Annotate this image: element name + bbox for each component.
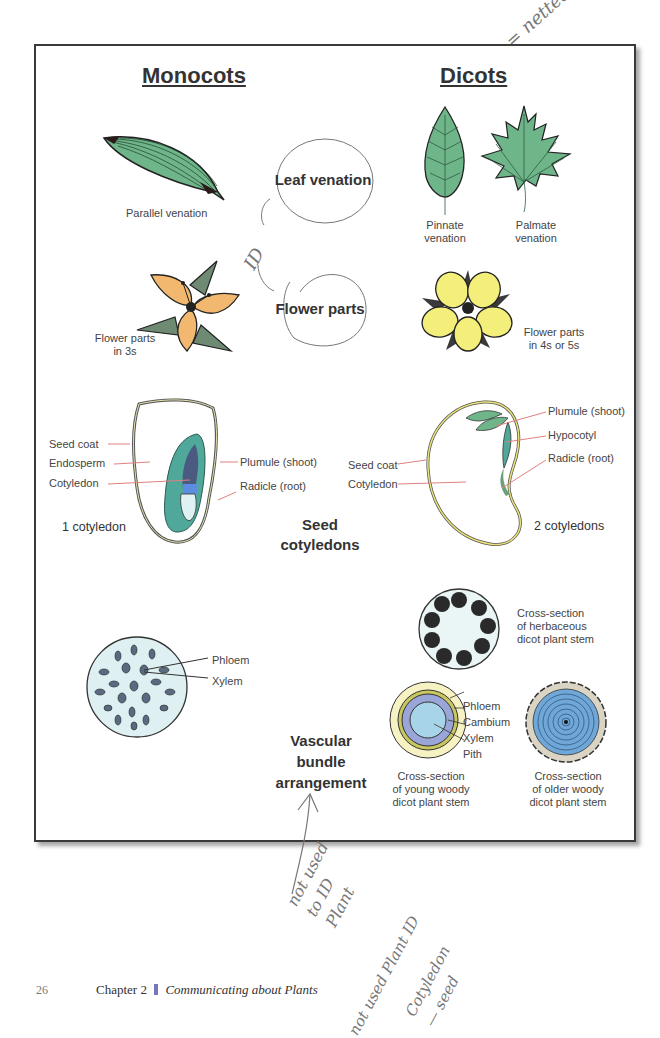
vascular-bundle-label: Vascularbundlearrangement xyxy=(262,730,380,793)
monocots-heading: Monocots xyxy=(142,63,246,89)
dicot-seed-coat-label: Seed coat xyxy=(348,459,398,472)
chapter-title: Communicating about Plants xyxy=(165,982,317,997)
xylem-label: Xylem xyxy=(463,732,494,745)
monocot-stem-icon xyxy=(84,634,194,744)
dicot-hypocotyl-label: Hypocotyl xyxy=(548,429,596,442)
chapter-footer: Chapter 2 Communicating about Plants xyxy=(96,982,318,998)
chapter-separator-icon xyxy=(154,984,158,995)
dicot-plumule-label: Plumule (shoot) xyxy=(548,405,625,418)
monocot-radicle-label: Radicle (root) xyxy=(240,480,306,493)
monocot-endosperm-label: Endosperm xyxy=(49,457,105,470)
palmate-venation-label: Palmatevenation xyxy=(508,219,564,245)
handwritten-bracket xyxy=(240,195,280,295)
dicots-heading: Dicots xyxy=(440,63,507,89)
monocot-seed-coat-label: Seed coat xyxy=(49,438,99,451)
monocot-cotyledon-label: Cotyledon xyxy=(49,477,99,490)
page-number: 26 xyxy=(36,983,48,998)
dicot-flower-label: Flower partsin 4s or 5s xyxy=(516,326,592,352)
two-cotyledons-label: 2 cotyledons xyxy=(534,519,604,534)
young-woody-stem-label: Cross-sectionof young woodydicot plant s… xyxy=(388,770,474,809)
pinnate-leaf-icon xyxy=(420,105,470,217)
dicot-radicle-label: Radicle (root) xyxy=(548,452,614,465)
phloem-label: Phloem xyxy=(463,700,500,713)
parallel-venation-label: Parallel venation xyxy=(126,207,207,220)
dicot-seed-pointer-lines xyxy=(396,408,546,488)
older-woody-stem-label: Cross-sectionof older woodydicot plant s… xyxy=(526,770,610,809)
leaf-venation-label: Leaf venation xyxy=(268,170,378,190)
one-cotyledon-label: 1 cotyledon xyxy=(62,520,126,535)
herbaceous-stem-icon xyxy=(416,586,502,672)
monocot-xylem-label: Xylem xyxy=(212,675,243,688)
monocot-plumule-label: Plumule (shoot) xyxy=(240,456,317,469)
pith-label: Pith xyxy=(463,748,482,761)
older-woody-stem-icon xyxy=(524,680,608,764)
monocot-phloem-label: Phloem xyxy=(212,654,249,667)
chapter-label: Chapter 2 xyxy=(96,982,147,997)
handwritten-cotyledon-seed: Cotyledon— seed xyxy=(400,942,475,1031)
cambium-label: Cambium xyxy=(463,716,510,729)
pinnate-venation-label: Pinnatevenation xyxy=(420,219,470,245)
dicot-flower-icon xyxy=(418,268,514,352)
handwritten-not-used-plant-id: not used Plant ID xyxy=(345,913,423,1038)
monocot-seed-pointer-lines xyxy=(100,440,240,510)
parallel-leaf-icon xyxy=(100,132,230,204)
flower-parts-label: Flower parts xyxy=(268,299,372,319)
seed-cotyledons-label: Seedcotyledons xyxy=(278,515,362,555)
dicot-cotyledon-label: Cotyledon xyxy=(348,478,398,491)
young-woody-stem-icon xyxy=(388,680,468,760)
monocot-flower-label: Flower partsin 3s xyxy=(90,332,160,358)
palmate-leaf-icon xyxy=(478,104,574,214)
herbaceous-stem-label: Cross-sectionof herbaceousdicot plant st… xyxy=(517,607,594,646)
